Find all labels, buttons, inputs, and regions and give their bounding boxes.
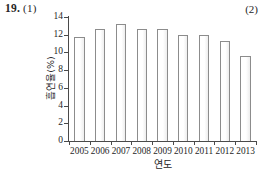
y-axis-title: 흡연율(%) [43, 56, 57, 99]
y-axis-tick-label: 0 [46, 136, 63, 146]
y-axis-tick-label: 2 [46, 118, 63, 128]
x-axis-tick-label: 2013 [235, 146, 256, 156]
x-axis-title: 연도 [69, 156, 256, 171]
y-axis-tick-label: 8 [46, 65, 63, 75]
bar [240, 56, 250, 141]
x-axis-tick [69, 141, 70, 145]
bar [116, 24, 126, 141]
y-axis-tick [64, 17, 68, 18]
y-axis-tick [64, 123, 68, 124]
y-axis-tick-label: 4 [46, 101, 63, 111]
x-axis-tick [194, 141, 195, 145]
bar [74, 37, 84, 141]
x-axis-tick [173, 141, 174, 145]
x-axis-line [68, 141, 257, 142]
bar [220, 41, 230, 141]
x-axis-tick-label: 2009 [152, 146, 173, 156]
bar [137, 29, 147, 141]
figure-page: 19. (1) (2) 흡연율(%) 연도 024681012142005200… [0, 0, 268, 173]
x-axis-tick-label: 2005 [69, 146, 90, 156]
y-axis-tick [64, 88, 68, 89]
y-axis-tick [64, 106, 68, 107]
y-axis-tick-label: 6 [46, 83, 63, 93]
x-axis-tick-label: 2006 [90, 146, 111, 156]
x-axis-tick-label: 2011 [194, 146, 215, 156]
x-axis-tick-label: 2010 [173, 146, 194, 156]
bar [95, 29, 105, 141]
x-axis-tick [214, 141, 215, 145]
y-axis-tick [64, 141, 68, 142]
x-axis-tick-label: 2007 [111, 146, 132, 156]
bar-chart: 흡연율(%) 연도 024681012142005200620072008200… [0, 0, 268, 173]
bar [157, 29, 167, 141]
x-axis-tick [152, 141, 153, 145]
x-axis-tick-label: 2012 [214, 146, 235, 156]
x-axis-tick [90, 141, 91, 145]
x-axis-tick-label: 2008 [131, 146, 152, 156]
x-axis-tick [235, 141, 236, 145]
plot-area [69, 17, 256, 141]
bar [199, 35, 209, 141]
x-axis-tick [256, 141, 257, 145]
y-axis-tick-label: 12 [46, 30, 63, 40]
y-axis-tick [64, 52, 68, 53]
x-axis-tick [111, 141, 112, 145]
y-axis-tick [64, 35, 68, 36]
bar [178, 35, 188, 141]
y-axis-tick-label: 14 [46, 12, 63, 22]
y-axis-tick-label: 10 [46, 47, 63, 57]
x-axis-tick [131, 141, 132, 145]
y-axis-tick [64, 70, 68, 71]
